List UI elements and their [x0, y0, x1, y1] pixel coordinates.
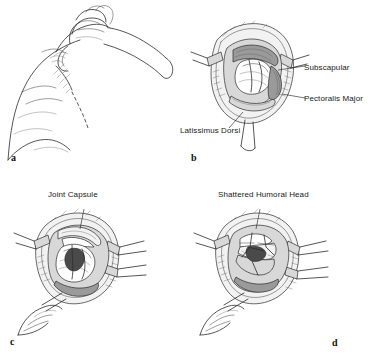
label-pectoralis-major: Pectoralis Major [304, 94, 363, 103]
panel-b: b [183, 0, 373, 170]
panel-b-letter: b [191, 152, 197, 163]
panel-d-letter: d [332, 337, 338, 348]
panel-b-drawing [183, 0, 373, 170]
label-latissimus-dorsi: Latissimus Dorsi [180, 126, 240, 135]
label-joint-capsule: Joint Capsule [48, 190, 98, 199]
label-shattered-humoral-head: Shattered Humoral Head [218, 190, 309, 199]
panel-a-drawing [0, 0, 180, 170]
panel-a-letter: a [11, 152, 16, 163]
panel-c-drawing [0, 185, 190, 356]
label-subscapular: Subscapular [304, 63, 350, 72]
panel-d-drawing [186, 185, 373, 356]
panel-d: d [186, 185, 373, 356]
panel-c: c [0, 185, 190, 356]
panel-c-letter: c [10, 336, 14, 347]
figure-four-panel-shoulder-surgery: a [0, 0, 373, 356]
panel-a: a [0, 0, 180, 170]
